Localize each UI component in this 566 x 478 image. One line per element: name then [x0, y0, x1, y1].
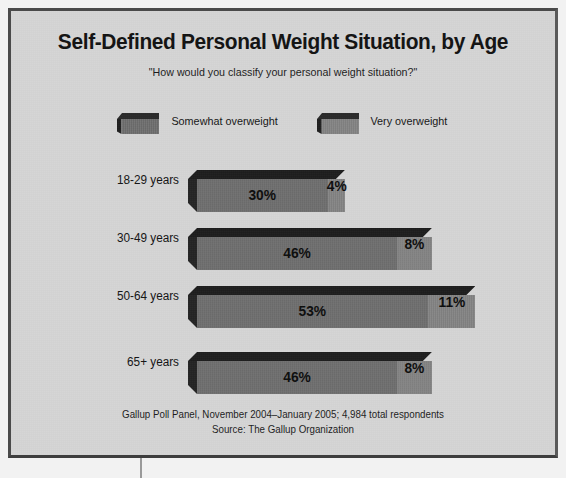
- swatch-front-face: [322, 119, 359, 134]
- chart-plot-area: 18-29 years30%4%30-49 years46%8%50-64 ye…: [11, 151, 555, 401]
- bar-side-face: [188, 295, 197, 328]
- bar-value-label: 11%: [425, 286, 478, 319]
- legend-swatch-somewhat-overweight: [117, 113, 159, 134]
- swatch-front-face: [122, 119, 159, 134]
- bar-value-label: 53%: [203, 295, 422, 328]
- bar-value-label: 8%: [394, 228, 435, 261]
- swatch-texture: [122, 119, 159, 134]
- category-label-2: 30-49 years: [21, 231, 179, 245]
- chart-subtitle: "How would you classify your personal we…: [30, 66, 536, 78]
- category-label-1: 18-29 years: [21, 173, 179, 187]
- stacked-bar[interactable]: 46%8%: [197, 237, 432, 270]
- stacked-bar[interactable]: 53%11%: [197, 295, 475, 328]
- bar-top-face: [188, 170, 345, 179]
- bar-side-face: [188, 179, 197, 212]
- legend-item-somewhat-overweight: Somewhat overweight: [117, 107, 281, 134]
- chart-container: Self-Defined Personal Weight Situation, …: [8, 8, 558, 458]
- stacked-bar[interactable]: 46%8%: [197, 361, 432, 394]
- bar-value-label: 46%: [202, 361, 392, 394]
- stacked-bar[interactable]: 30%4%: [197, 179, 345, 212]
- bar-row: 65+ years46%8%: [11, 347, 555, 405]
- bar-value-label: 4%: [324, 170, 348, 203]
- bottom-tick-mark: [140, 458, 142, 478]
- bar-row: 30-49 years46%8%: [11, 223, 555, 281]
- bar-value-label: 8%: [394, 352, 435, 385]
- legend-swatch-very-overweight: [317, 113, 359, 134]
- category-label-3: 50-64 years: [21, 289, 179, 303]
- bar-value-label: 30%: [200, 179, 324, 212]
- legend-label-very-overweight: Very overweight: [370, 115, 447, 127]
- category-label-4: 65+ years: [21, 355, 179, 369]
- bar-row: 50-64 years53%11%: [11, 281, 555, 339]
- footer-organization-line: Source: The Gallup Organization: [30, 422, 536, 437]
- footer-source-line: Gallup Poll Panel, November 2004–January…: [30, 407, 536, 422]
- chart-footer: Gallup Poll Panel, November 2004–January…: [11, 407, 555, 437]
- legend-item-very-overweight: Very overweight: [317, 107, 450, 134]
- legend-label-somewhat-overweight: Somewhat overweight: [171, 115, 277, 127]
- chart-legend: Somewhat overweight Very overweight: [11, 107, 555, 134]
- bar-row: 18-29 years30%4%: [11, 165, 555, 223]
- bar-value-label: 46%: [202, 237, 392, 270]
- swatch-texture: [322, 119, 359, 134]
- bar-side-face: [188, 361, 197, 394]
- chart-title: Self-Defined Personal Weight Situation, …: [30, 29, 536, 55]
- bar-side-face: [188, 237, 197, 270]
